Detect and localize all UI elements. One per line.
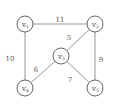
graph-diagram: 11105967 v1v2v3v4v5 xyxy=(0,0,120,111)
edge-weight-v1-v2: 11 xyxy=(56,16,65,24)
node-v4: v4 xyxy=(17,80,33,96)
node-subscript: 2 xyxy=(96,24,99,29)
edge-weight-v1-v4: 10 xyxy=(6,55,15,63)
edge-weight-v3-v4: 6 xyxy=(34,66,39,74)
edge-weight-v2-v5: 9 xyxy=(99,56,103,64)
node-subscript: 1 xyxy=(26,24,29,29)
node-subscript: 4 xyxy=(26,88,29,93)
node-v5: v5 xyxy=(87,80,103,96)
node-v1: v1 xyxy=(17,16,33,32)
node-subscript: 5 xyxy=(96,88,99,93)
node-subscript: 3 xyxy=(62,56,65,61)
edge-weight-v2-v3: 5 xyxy=(67,34,71,42)
edge-weight-v3-v5: 7 xyxy=(68,76,72,84)
nodes-group: v1v2v3v4v5 xyxy=(17,16,103,96)
node-v3: v3 xyxy=(53,48,69,64)
node-v2: v2 xyxy=(87,16,103,32)
